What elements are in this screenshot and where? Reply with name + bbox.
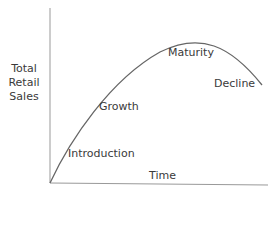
x-axis-label: Time [149,169,176,182]
stage-decline: Decline [214,77,255,90]
y-label-line-2: Retail [4,76,44,90]
stage-growth: Growth [99,100,139,113]
y-axis-label: Total Retail Sales [4,62,44,104]
x-axis [50,183,268,185]
stage-introduction: Introduction [68,147,135,160]
stage-maturity: Maturity [168,46,214,59]
sales-curve [50,43,262,183]
y-label-line-1: Total [4,62,44,76]
y-label-line-3: Sales [4,90,44,104]
